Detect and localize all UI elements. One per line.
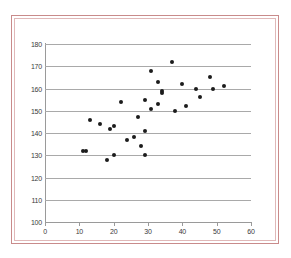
data-point	[143, 98, 147, 102]
gridline	[45, 44, 251, 45]
data-point	[211, 87, 215, 91]
data-point	[98, 122, 102, 126]
y-axis-tick-label: 100	[31, 219, 42, 226]
gridline	[45, 155, 251, 156]
data-point	[112, 124, 116, 128]
x-axis-tick-marks	[45, 222, 252, 227]
gridline	[45, 133, 251, 134]
y-axis-tick-label: 120	[31, 174, 42, 181]
data-point	[143, 129, 147, 133]
data-point	[125, 138, 129, 142]
y-axis-tick-label: 180	[31, 41, 42, 48]
x-axis-tick-mark	[217, 222, 218, 226]
x-axis-tick-label: 40	[179, 228, 186, 235]
data-point	[112, 153, 116, 157]
data-point	[156, 80, 160, 84]
gridline	[45, 66, 251, 67]
data-point	[170, 60, 174, 64]
data-point	[84, 149, 88, 153]
x-axis-tick-mark	[251, 222, 252, 226]
gridline	[45, 89, 251, 90]
x-axis-tick-mark	[182, 222, 183, 226]
data-point	[88, 118, 92, 122]
data-point	[222, 84, 226, 88]
data-point	[208, 75, 212, 79]
y-axis-tick-label: 160	[31, 85, 42, 92]
gridline	[45, 111, 251, 112]
y-axis-tick-labels: 100110120130140150160170180	[18, 44, 42, 222]
chart-figure: 100110120130140150160170180 010203040506…	[0, 0, 291, 258]
x-axis-tick-label: 10	[76, 228, 83, 235]
x-axis-tick-label: 0	[43, 228, 47, 235]
data-point	[119, 100, 123, 104]
data-point	[139, 144, 143, 148]
y-axis-tick-label: 140	[31, 130, 42, 137]
x-axis-tick-label: 20	[110, 228, 117, 235]
plot-area	[45, 44, 251, 222]
data-point	[143, 153, 147, 157]
data-point	[132, 135, 136, 139]
data-point	[173, 109, 177, 113]
x-axis-tick-mark	[45, 222, 46, 226]
x-axis-tick-mark	[114, 222, 115, 226]
gridline	[45, 178, 251, 179]
y-axis-tick-label: 130	[31, 152, 42, 159]
x-axis-tick-label: 50	[213, 228, 220, 235]
data-point	[105, 158, 109, 162]
data-point	[180, 82, 184, 86]
data-point	[136, 115, 140, 119]
data-point	[149, 69, 153, 73]
y-axis-tick-label: 110	[31, 196, 42, 203]
x-axis-tick-label: 60	[247, 228, 254, 235]
y-axis-tick-label: 170	[31, 63, 42, 70]
data-point	[156, 102, 160, 106]
y-axis-tick-label: 150	[31, 107, 42, 114]
x-axis-tick-mark	[79, 222, 80, 226]
data-point	[160, 91, 164, 95]
data-point	[198, 95, 202, 99]
gridline	[45, 200, 251, 201]
x-axis-tick-mark	[148, 222, 149, 226]
data-point	[184, 104, 188, 108]
x-axis-tick-labels: 0102030405060	[45, 228, 252, 240]
x-axis-tick-label: 30	[144, 228, 151, 235]
data-point	[194, 87, 198, 91]
